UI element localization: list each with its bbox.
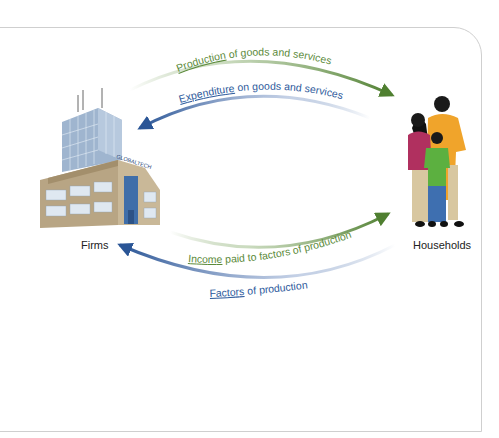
households-label: Households — [413, 239, 471, 251]
expenditure-arrow — [140, 96, 370, 128]
firms-building-icon: GLOBALTECH — [40, 88, 160, 228]
firms-label: Firms — [81, 239, 109, 251]
factors-label: Factors of production — [209, 278, 308, 299]
circular-flow-diagram: Production of goods and services Expendi… — [0, 0, 499, 438]
income-arrow — [170, 214, 388, 247]
production-label: Production of goods and services — [175, 45, 334, 73]
households-family-icon — [408, 96, 466, 227]
